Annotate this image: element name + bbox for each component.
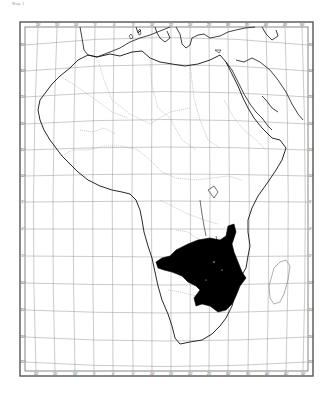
svg-text:20°: 20° — [21, 122, 27, 126]
svg-text:15°: 15° — [169, 23, 175, 27]
svg-text:25°: 25° — [207, 23, 213, 27]
svg-text:0°: 0° — [309, 227, 313, 231]
svg-text:5°: 5° — [309, 200, 313, 204]
svg-text:15°: 15° — [169, 372, 175, 376]
svg-text:35°: 35° — [21, 43, 27, 47]
svg-text:20°: 20° — [34, 372, 40, 376]
svg-text:25°: 25° — [309, 360, 315, 364]
islands — [129, 29, 221, 53]
svg-text:40°: 40° — [264, 23, 270, 27]
svg-text:5°: 5° — [309, 254, 313, 258]
svg-text:0°: 0° — [113, 23, 117, 27]
svg-text:15°: 15° — [21, 148, 27, 152]
svg-text:15°: 15° — [53, 372, 59, 376]
svg-text:30°: 30° — [226, 23, 232, 27]
svg-text:25°: 25° — [21, 95, 27, 99]
svg-text:10°: 10° — [73, 372, 79, 376]
svg-text:25°: 25° — [207, 372, 213, 376]
svg-text:50°: 50° — [300, 23, 306, 27]
bottom-ticks: 20° 15° 10° 5° 0° 5° 10° 15° 20° 25° 30°… — [34, 372, 307, 376]
svg-text:50°: 50° — [301, 372, 307, 376]
africa-distribution-map: 20° 15° 10° 5° 0° 5° 10° 15° 20° 25° 30°… — [0, 0, 329, 397]
svg-text:35°: 35° — [309, 43, 315, 47]
svg-text:20°: 20° — [36, 23, 42, 27]
svg-text:10°: 10° — [21, 281, 27, 285]
svg-text:30°: 30° — [309, 69, 315, 73]
svg-text:15°: 15° — [55, 23, 61, 27]
svg-text:10°: 10° — [21, 174, 27, 178]
svg-text:30°: 30° — [21, 69, 27, 73]
svg-text:30°: 30° — [226, 372, 232, 376]
svg-text:20°: 20° — [21, 335, 27, 339]
top-ticks: 20° 15° 10° 5° 0° 5° 10° 15° 20° 25° 30°… — [36, 23, 306, 27]
europe-coast — [80, 27, 278, 57]
distribution-area — [156, 224, 246, 312]
svg-text:45°: 45° — [283, 23, 289, 27]
svg-text:25°: 25° — [21, 360, 27, 364]
svg-text:25°: 25° — [309, 95, 315, 99]
svg-text:45°: 45° — [284, 372, 290, 376]
svg-text:10°: 10° — [150, 372, 156, 376]
madagascar — [269, 260, 290, 304]
svg-text:20°: 20° — [309, 335, 315, 339]
svg-text:35°: 35° — [245, 23, 251, 27]
parallels — [25, 38, 308, 367]
svg-text:20°: 20° — [188, 23, 194, 27]
svg-text:10°: 10° — [150, 23, 156, 27]
svg-text:5°: 5° — [94, 23, 98, 27]
outer-frame — [20, 22, 313, 376]
svg-text:15°: 15° — [309, 148, 315, 152]
svg-text:20°: 20° — [309, 122, 315, 126]
svg-text:35°: 35° — [246, 372, 252, 376]
svg-text:10°: 10° — [74, 23, 80, 27]
svg-text:10°: 10° — [309, 281, 315, 285]
svg-text:15°: 15° — [21, 308, 27, 312]
svg-text:10°: 10° — [309, 174, 315, 178]
svg-text:5°: 5° — [132, 23, 136, 27]
svg-text:15°: 15° — [309, 308, 315, 312]
svg-text:40°: 40° — [265, 372, 271, 376]
svg-text:20°: 20° — [188, 372, 194, 376]
inner-frame — [25, 27, 308, 371]
